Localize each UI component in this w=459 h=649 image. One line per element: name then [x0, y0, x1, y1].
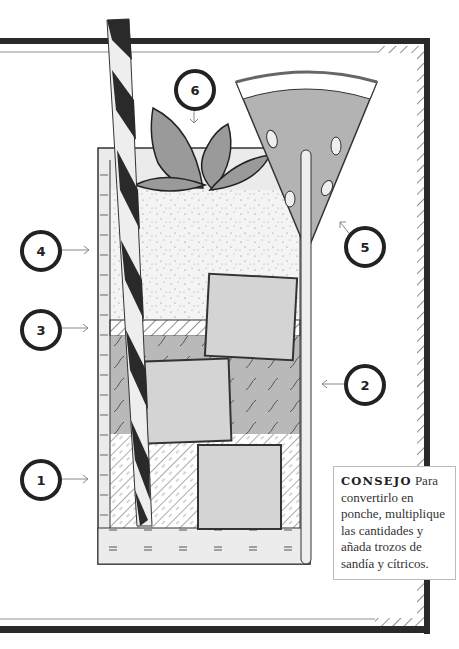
callout-4: 4 [20, 230, 62, 272]
ice-cube [198, 445, 281, 529]
callout-3: 3 [20, 309, 62, 351]
frame-top [0, 38, 430, 44]
callout-5: 5 [344, 226, 386, 268]
tip-box: CONSEJO Para convertirlo en ponche, mult… [333, 466, 456, 580]
stick [301, 150, 311, 564]
callout-6: 6 [174, 69, 216, 111]
callout-2: 2 [344, 364, 386, 406]
ice-cube [145, 359, 232, 444]
frame-bottom [0, 626, 430, 633]
tip-heading: CONSEJO [341, 474, 412, 488]
callout-1: 1 [20, 459, 62, 501]
ice-cube [205, 274, 297, 360]
